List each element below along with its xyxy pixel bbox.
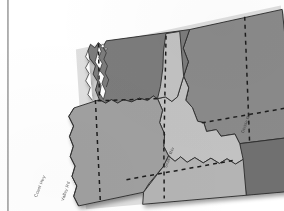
scanned-page: Coast Hwy Valley Rd Snake Riv Divide Rd — [0, 0, 284, 211]
map-figure: Coast Hwy Valley Rd Snake Riv Divide Rd — [0, 0, 284, 211]
